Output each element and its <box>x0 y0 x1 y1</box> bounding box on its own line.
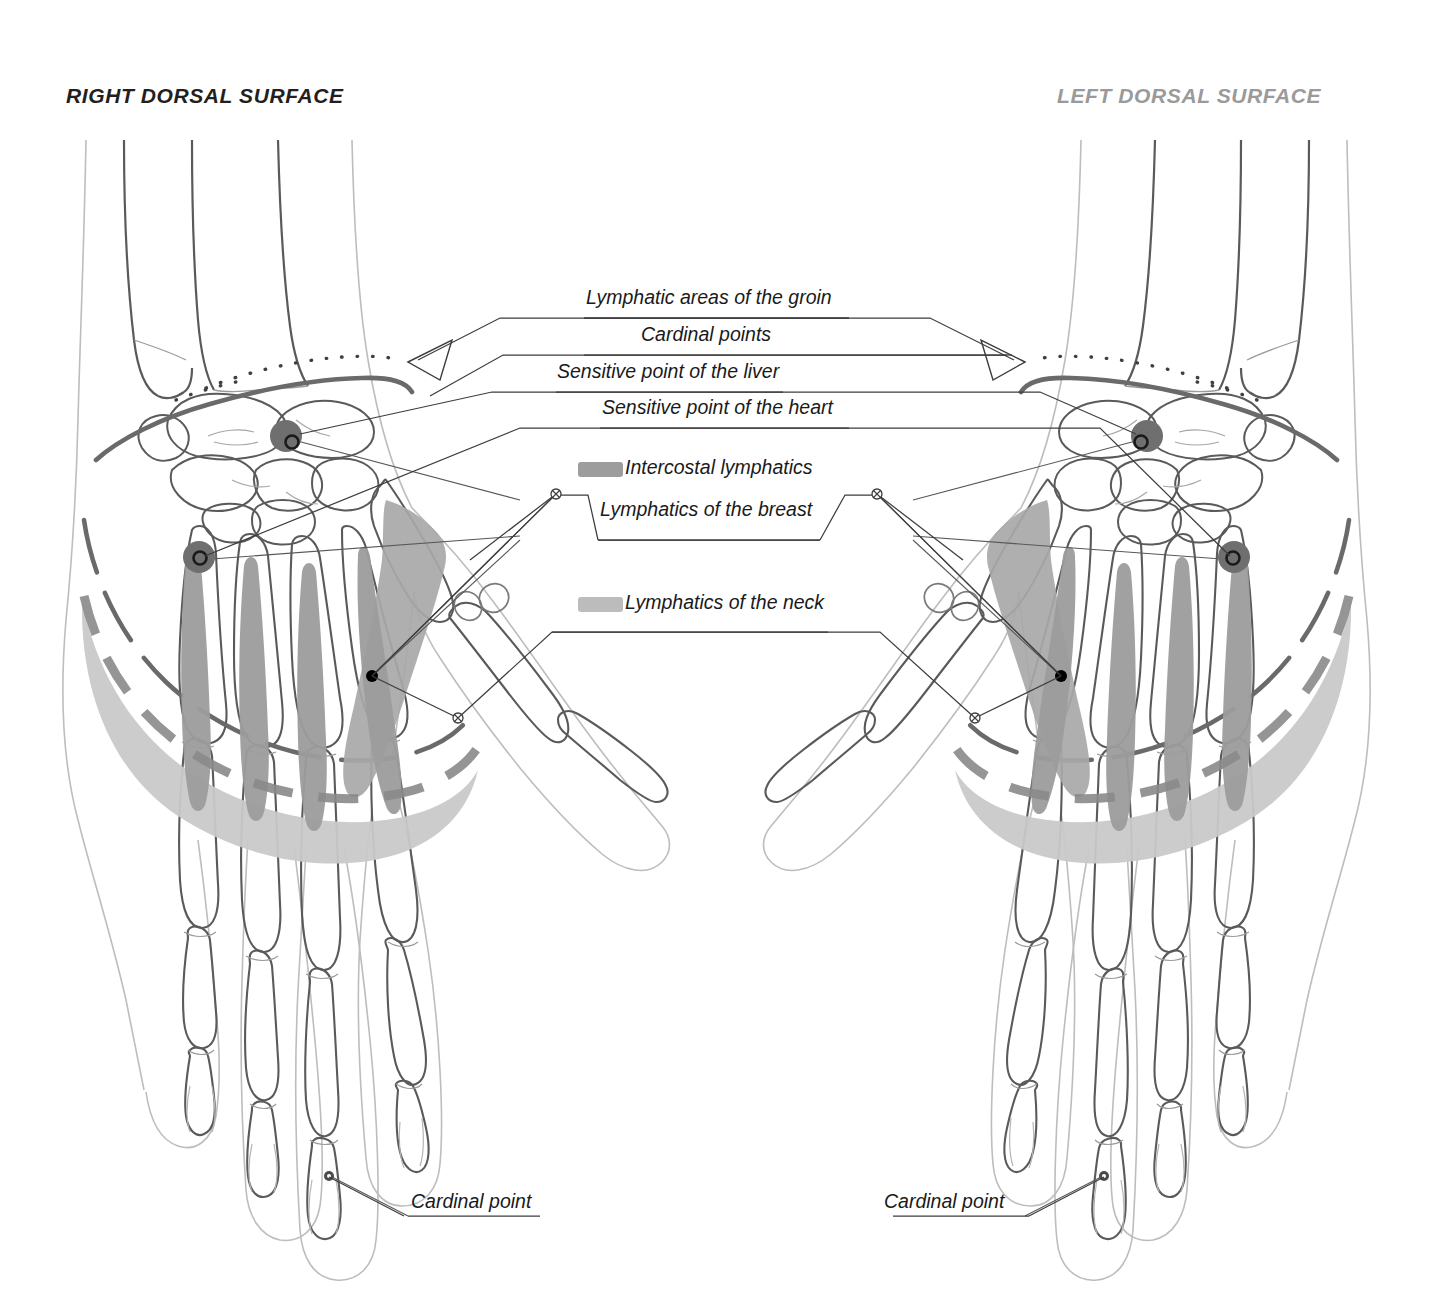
callout-cardinal-point-right: Cardinal point <box>884 1192 1004 1212</box>
left-hand-figure <box>764 140 1371 1280</box>
swatch-lymphatics-neck <box>578 597 623 612</box>
legend-label-intercostal: Intercostal lymphatics <box>625 458 813 478</box>
legend-label-breast: Lymphatics of the breast <box>600 500 812 520</box>
label-underlines <box>408 318 1029 1216</box>
legend-label-groin: Lymphatic areas of the groin <box>586 288 832 308</box>
legend-label-liver: Sensitive point of the liver <box>557 362 779 382</box>
hands-illustration <box>0 0 1433 1304</box>
legend-label-cardinal-points: Cardinal points <box>641 325 771 345</box>
right-hand-figure <box>63 140 670 1280</box>
callout-cardinal-point-left: Cardinal point <box>411 1192 531 1212</box>
legend-label-neck: Lymphatics of the neck <box>625 593 824 613</box>
swatch-intercostal-lymphatics <box>578 462 623 477</box>
diagram-canvas: RIGHT DORSAL SURFACE LEFT DORSAL SURFACE <box>0 0 1433 1304</box>
legend-label-heart: Sensitive point of the heart <box>602 398 833 418</box>
